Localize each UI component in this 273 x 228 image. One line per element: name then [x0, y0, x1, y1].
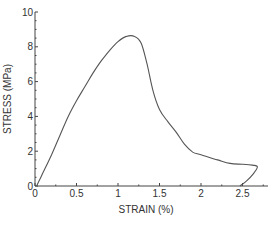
y-tick-label: 8: [27, 41, 33, 52]
x-tick-label: 2.5: [236, 188, 250, 199]
x-axis-title: STRAIN (%): [119, 204, 174, 215]
stress-strain-curve: [37, 36, 258, 186]
y-tick-label: 6: [27, 76, 33, 87]
x-tick-label: 1.5: [153, 188, 167, 199]
x-tick-label: 0: [32, 188, 38, 199]
y-tick-label: 2: [27, 146, 33, 157]
x-tick-label: 0.5: [70, 188, 84, 199]
y-axis-title: STRESS (MPa): [2, 64, 13, 134]
tick-labels: 00.511.522.50246810: [22, 7, 250, 200]
x-tick-label: 2: [198, 188, 204, 199]
axis-ticks: [35, 12, 263, 186]
y-tick-label: 0: [27, 181, 33, 192]
x-tick-label: 1: [115, 188, 121, 199]
axes: [35, 12, 268, 186]
y-tick-label: 4: [27, 111, 33, 122]
stress-strain-chart: 00.511.522.50246810 STRAIN (%) STRESS (M…: [0, 0, 273, 228]
y-tick-label: 10: [22, 7, 34, 18]
